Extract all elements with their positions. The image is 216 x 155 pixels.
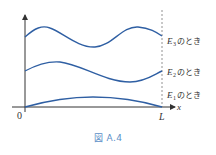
label-e1: E 1 のとき <box>166 90 201 101</box>
svg-text:E: E <box>166 67 173 77</box>
svg-text:のとき: のとき <box>177 68 201 77</box>
origin-label: 0 <box>17 110 22 121</box>
curve-e3 <box>25 27 162 47</box>
svg-text:1: 1 <box>173 95 176 101</box>
svg-text:E: E <box>166 90 173 100</box>
svg-text:のとき: のとき <box>177 37 201 46</box>
svg-text:E: E <box>166 36 173 46</box>
label-e2: E 2 のとき <box>166 67 201 78</box>
svg-text:のとき: のとき <box>177 91 201 100</box>
curve-e1 <box>25 97 162 107</box>
end-label-L: L <box>158 111 165 122</box>
svg-text:3: 3 <box>173 41 176 47</box>
wavefunction-diagram: 0 L x E 3 のとき E 2 のとき E 1 のとき <box>0 0 216 125</box>
x-axis-label: x <box>176 102 181 112</box>
curve-e2 <box>25 62 162 82</box>
label-e3: E 3 のとき <box>166 36 201 47</box>
svg-text:2: 2 <box>173 72 176 78</box>
figure-caption: 図 A.4 <box>0 131 216 144</box>
